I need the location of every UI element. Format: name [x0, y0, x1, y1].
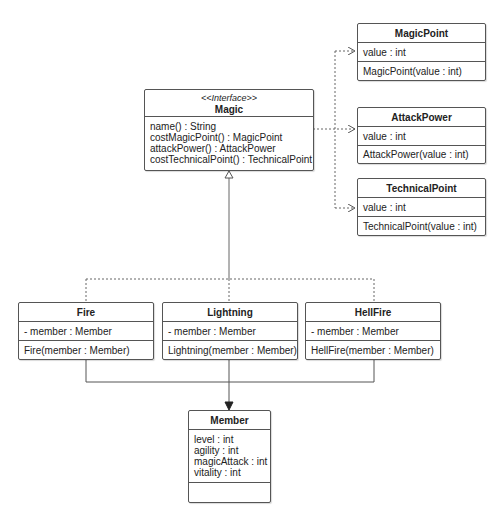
- attribute: - member : Member: [24, 326, 112, 337]
- attributes-section: value : int: [358, 43, 485, 62]
- operations-section: name() : String costMagicPoint() : Magic…: [145, 117, 313, 169]
- operations-section: MagicPoint(value : int): [358, 62, 485, 80]
- attribute: value : int: [363, 131, 406, 142]
- attributes-section: value : int: [358, 127, 485, 146]
- attributes-section: - member : Member: [19, 322, 153, 341]
- attribute: vitality : int: [194, 467, 265, 478]
- operations-section: [189, 483, 270, 503]
- attributes-section: - member : Member: [306, 322, 440, 341]
- class-name: Magic: [145, 104, 313, 116]
- operation: attackPower() : AttackPower: [150, 143, 308, 154]
- class-magic: <<Interface>> Magic name() : String cost…: [144, 89, 314, 171]
- class-name: TechnicalPoint: [386, 183, 456, 194]
- attribute: value : int: [363, 202, 406, 213]
- class-header: Fire: [19, 303, 153, 322]
- class-fire: Fire - member : Member Fire(member : Mem…: [18, 302, 154, 360]
- class-name: HellFire: [355, 307, 392, 318]
- operation: MagicPoint(value : int): [363, 66, 462, 77]
- class-technical-point: TechnicalPoint value : int TechnicalPoin…: [357, 178, 486, 236]
- stereotype-label: <<Interface>>: [145, 90, 313, 104]
- operation: HellFire(member : Member): [311, 345, 434, 356]
- association-lines: [86, 359, 374, 410]
- class-header: <<Interface>> Magic: [145, 90, 313, 117]
- attribute: level : int: [194, 434, 265, 445]
- operations-section: AttackPower(value : int): [358, 146, 485, 163]
- class-lightning: Lightning - member : Member Lightning(me…: [162, 302, 298, 360]
- attribute: - member : Member: [168, 326, 256, 337]
- operations-section: Fire(member : Member): [19, 341, 153, 359]
- operations-section: TechnicalPoint(value : int): [358, 217, 485, 235]
- class-hellfire: HellFire - member : Member HellFire(memb…: [305, 302, 441, 360]
- class-header: MagicPoint: [358, 24, 485, 43]
- attribute: value : int: [363, 47, 406, 58]
- operations-section: Lightning(member : Member): [163, 341, 297, 359]
- operation: costMagicPoint() : MagicPoint: [150, 132, 308, 143]
- dependency-lines: [313, 51, 355, 208]
- attributes-section: value : int: [358, 198, 485, 217]
- class-name: Fire: [77, 307, 95, 318]
- operation: costTechnicalPoint() : TechnicalPoint: [150, 154, 308, 165]
- class-attack-power: AttackPower value : int AttackPower(valu…: [357, 107, 486, 164]
- operation: Fire(member : Member): [24, 345, 130, 356]
- attribute: agility : int: [194, 445, 265, 456]
- attributes-section: - member : Member: [163, 322, 297, 341]
- class-member: Member level : int agility : int magicAt…: [188, 410, 271, 503]
- class-header: AttackPower: [358, 108, 485, 127]
- attribute: magicAttack : int: [194, 456, 265, 467]
- operation: Lightning(member : Member): [168, 345, 297, 356]
- class-header: Member: [189, 411, 270, 430]
- operations-section: HellFire(member : Member): [306, 341, 440, 359]
- realization-lines: [86, 171, 374, 302]
- operation: AttackPower(value : int): [363, 149, 469, 160]
- class-magic-point: MagicPoint value : int MagicPoint(value …: [357, 23, 486, 81]
- class-name: Member: [210, 415, 248, 426]
- operation: TechnicalPoint(value : int): [363, 221, 477, 232]
- attributes-section: level : int agility : int magicAttack : …: [189, 430, 270, 483]
- operation: name() : String: [150, 121, 308, 132]
- class-name: AttackPower: [391, 112, 452, 123]
- attribute: - member : Member: [311, 326, 399, 337]
- class-name: MagicPoint: [395, 28, 448, 39]
- class-header: TechnicalPoint: [358, 179, 485, 198]
- class-header: Lightning: [163, 303, 297, 322]
- class-name: Lightning: [207, 307, 253, 318]
- class-header: HellFire: [306, 303, 440, 322]
